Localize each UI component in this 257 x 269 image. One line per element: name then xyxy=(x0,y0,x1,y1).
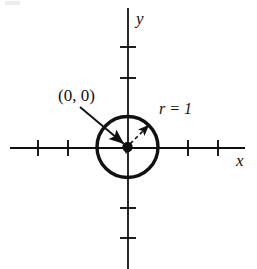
y-axis-label: y xyxy=(134,9,144,28)
origin-leader-arrow xyxy=(80,107,124,144)
origin-point-marker xyxy=(122,142,132,152)
unit-circle-diagram: (0, 0) r = 1 y x xyxy=(0,0,257,269)
figure-canvas: (0, 0) r = 1 y x xyxy=(0,0,257,269)
radius-arrow xyxy=(130,126,149,145)
radius-label: r = 1 xyxy=(159,100,192,117)
origin-point-label: (0, 0) xyxy=(58,86,95,105)
x-axis-label: x xyxy=(235,151,244,170)
